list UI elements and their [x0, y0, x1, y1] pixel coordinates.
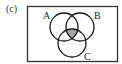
label-b: B — [94, 10, 101, 21]
label-a: A — [43, 10, 51, 21]
venn-diagram: A B C — [0, 0, 122, 64]
label-c: C — [84, 51, 91, 62]
